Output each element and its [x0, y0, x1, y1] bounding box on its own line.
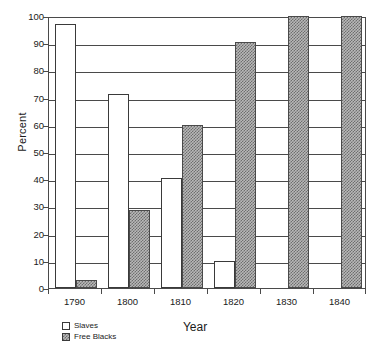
x-tick-mark: [260, 289, 261, 294]
legend-swatch-icon: [62, 322, 70, 330]
x-tick-mark: [313, 289, 314, 294]
y-tick-label: 90: [14, 39, 44, 49]
plot-area: [48, 17, 366, 289]
bar-free-blacks-1790: [76, 280, 97, 288]
bar-free-blacks-1830: [288, 16, 309, 288]
bar-free-blacks-1840: [341, 16, 362, 288]
y-tick-label: 70: [14, 94, 44, 104]
x-tick-mark: [154, 289, 155, 294]
x-tick-label: 1790: [45, 296, 105, 307]
y-tick-label: 40: [14, 175, 44, 185]
y-tick-label: 20: [14, 230, 44, 240]
legend-label: Free Blacks: [74, 331, 116, 342]
y-tick-label: 100: [14, 12, 44, 22]
x-tick-label: 1800: [98, 296, 158, 307]
chart-figure: Percent 0102030405060708090100 179018001…: [0, 0, 377, 352]
y-tick-label: 60: [14, 121, 44, 131]
legend-item-slaves: Slaves: [62, 320, 116, 331]
y-tick-label: 50: [14, 148, 44, 158]
bar-free-blacks-1800: [129, 210, 150, 288]
bar-free-blacks-1810: [182, 125, 203, 288]
legend-item-free-blacks: Free Blacks: [62, 331, 116, 342]
x-tick-mark: [48, 289, 49, 294]
x-tick-mark: [365, 289, 366, 294]
legend-label: Slaves: [74, 320, 98, 331]
bar-slaves-1810: [161, 178, 182, 288]
legend-swatch-icon: [62, 333, 70, 341]
x-axis-tick-labels: 179018001810182018301840: [48, 296, 366, 310]
bars-layer: [49, 18, 365, 288]
x-tick-mark: [207, 289, 208, 294]
y-tick-label: 80: [14, 66, 44, 76]
y-tick-label: 0: [14, 284, 44, 294]
bar-free-blacks-1820: [235, 42, 256, 288]
bar-slaves-1820: [214, 261, 235, 288]
x-tick-label: 1820: [204, 296, 264, 307]
y-tick-label: 30: [14, 202, 44, 212]
y-tick-label: 10: [14, 257, 44, 267]
x-tick-label: 1810: [151, 296, 211, 307]
bar-slaves-1790: [55, 24, 76, 288]
bar-slaves-1800: [108, 94, 129, 288]
x-axis-title: Year: [120, 320, 270, 334]
x-tick-label: 1840: [310, 296, 370, 307]
x-tick-label: 1830: [257, 296, 317, 307]
chart-legend: SlavesFree Blacks: [62, 320, 116, 342]
x-axis-tick-marks: [48, 289, 366, 295]
y-axis-tick-labels: 0102030405060708090100: [14, 10, 44, 296]
x-tick-mark: [101, 289, 102, 294]
